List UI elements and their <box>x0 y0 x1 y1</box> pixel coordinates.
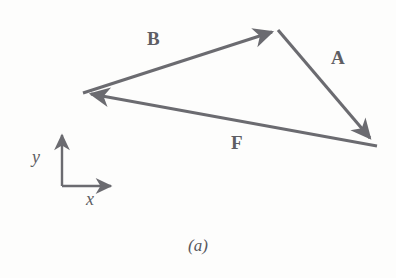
vector-a-line <box>278 30 370 138</box>
vector-label-b: B <box>147 29 160 48</box>
figure-caption: (a) <box>0 236 396 256</box>
axis-label-y: y <box>32 148 40 166</box>
axis-label-x: x <box>86 190 94 208</box>
vector-diagram-figure: B A F y x (a) <box>0 0 396 278</box>
vector-label-a: A <box>331 48 345 67</box>
vector-b-line <box>83 32 272 93</box>
vector-label-f: F <box>231 133 243 152</box>
